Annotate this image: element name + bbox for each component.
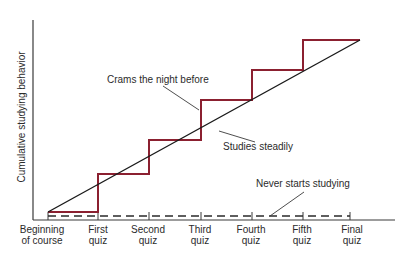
tick-label-second-2: quiz xyxy=(139,235,157,246)
tick-label-fourth-1: Fourth xyxy=(237,224,266,235)
tick-label-second-1: Second xyxy=(131,224,165,235)
tick-label-final-1: Final xyxy=(341,224,363,235)
y-axis-label: Cumulative studying behavior xyxy=(16,51,27,183)
never-label: Never starts studying xyxy=(256,178,350,189)
x-tick-labels: Beginning of course First quiz Second qu… xyxy=(20,224,363,246)
tick-label-fourth-2: quiz xyxy=(242,235,260,246)
steady-label: Studies steadily xyxy=(223,141,293,152)
tick-label-third-2: quiz xyxy=(191,235,209,246)
tick-label-beginning-1: Beginning xyxy=(20,224,64,235)
tick-label-beginning-2: of course xyxy=(21,235,63,246)
crams-leader xyxy=(163,86,199,110)
cumulative-studying-chart: Cumulative studying behavior Crams the n… xyxy=(0,0,418,258)
tick-label-first-1: First xyxy=(88,224,108,235)
never-leader xyxy=(270,192,304,216)
tick-label-fifth-1: Fifth xyxy=(292,224,311,235)
tick-label-fifth-2: quiz xyxy=(293,235,311,246)
tick-label-third-1: Third xyxy=(189,224,212,235)
tick-label-final-2: quiz xyxy=(343,235,361,246)
crams-label: Crams the night before xyxy=(107,74,209,85)
tick-label-first-2: quiz xyxy=(89,235,107,246)
